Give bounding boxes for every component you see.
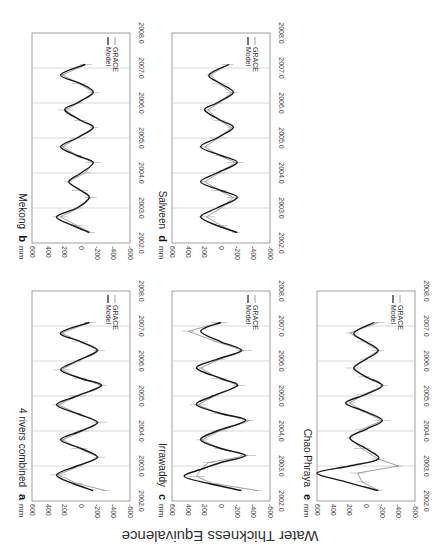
y-tick-label: 400: [45, 246, 52, 258]
y-tick-label: 0: [218, 246, 225, 250]
legend: ModelGRACE: [245, 295, 259, 330]
y-tick-label: 0: [78, 246, 85, 250]
x-tick-label: 2003.0: [278, 455, 285, 477]
panel-letter: b: [17, 235, 29, 242]
x-tick-label: 2008.0: [423, 280, 430, 302]
chart-svg: 2002.02003.02004.02005.02006.02007.02008…: [0, 0, 150, 270]
y-tick-label: 200: [61, 504, 68, 516]
panel-letter: c: [157, 494, 169, 500]
panel-title: Salween: [157, 191, 168, 229]
x-tick-label: 2008.0: [278, 280, 285, 302]
panel-e-chao-phraya: 2002.02003.02004.02005.02006.02007.02008…: [285, 258, 425, 518]
y-tick-label: 0: [78, 504, 85, 508]
x-tick-label: 2007.0: [278, 57, 285, 79]
model-series: [56, 65, 93, 233]
x-tick-label: 2007.0: [423, 315, 430, 337]
panel-title: Irrawaddy: [157, 443, 168, 487]
legend-grace-label: GRACE: [397, 305, 404, 330]
y-tick-label: 600: [169, 246, 176, 258]
unit-label: mm: [17, 504, 26, 518]
y-tick-label: 200: [201, 246, 208, 258]
panel-b-mekong: 2002.02003.02004.02005.02006.02007.02008…: [0, 0, 140, 260]
y-tick-label: -600: [127, 504, 134, 518]
shared-y-axis-label: Water Thickness Equivalence: [0, 528, 440, 545]
panel-letter: a: [17, 494, 29, 501]
x-tick-label: 2002.0: [278, 490, 285, 512]
x-tick-label: 2002.0: [423, 490, 430, 512]
unit-label: mm: [157, 504, 166, 518]
y-tick-label: 400: [185, 504, 192, 516]
chart-svg: 2002.02003.02004.02005.02006.02007.02008…: [140, 0, 290, 270]
legend: ModelGRACE: [245, 37, 259, 72]
chart-svg: 2002.02003.02004.02005.02006.02007.02008…: [285, 258, 435, 528]
x-tick-label: 2003.0: [278, 197, 285, 219]
x-tick-label: 2004.0: [278, 162, 285, 184]
x-tick-label: 2003.0: [423, 455, 430, 477]
y-tick-label: -600: [267, 504, 274, 518]
y-tick-label: 400: [330, 504, 337, 516]
y-tick-label: -600: [412, 504, 419, 518]
y-tick-label: 400: [185, 246, 192, 258]
grace-series: [58, 323, 105, 491]
y-tick-label: 400: [45, 504, 52, 516]
y-tick-label: 600: [29, 504, 36, 516]
legend-grace-label: GRACE: [112, 305, 119, 330]
x-tick-label: 2002.0: [278, 232, 285, 254]
panel-c-irrawaddy: 2002.02003.02004.02005.02006.02007.02008…: [140, 258, 280, 518]
y-tick-label: -400: [250, 504, 257, 518]
y-tick-label: -200: [94, 504, 101, 518]
legend-grace-label: GRACE: [252, 47, 259, 72]
legend-model-label: Model: [245, 305, 252, 325]
model-series: [184, 323, 245, 491]
legend-model-label: Model: [245, 47, 252, 67]
y-tick-label: -200: [379, 504, 386, 518]
panel-letter: d: [157, 235, 169, 242]
model-series: [201, 65, 238, 233]
x-tick-label: 2008.0: [278, 22, 285, 44]
model-series: [56, 323, 101, 491]
grace-series: [350, 323, 399, 491]
legend: ModelGRACE: [105, 295, 119, 330]
y-tick-label: 200: [346, 504, 353, 516]
panel-d-salween: 2002.02003.02004.02005.02006.02007.02008…: [140, 0, 280, 260]
y-tick-label: 200: [201, 504, 208, 516]
x-tick-label: 2006.0: [423, 350, 430, 372]
legend-model-label: Model: [390, 305, 397, 325]
panel-title: 4 rivers combined: [17, 408, 28, 487]
x-tick-label: 2005.0: [278, 385, 285, 407]
y-tick-label: -400: [395, 504, 402, 518]
legend-model-label: Model: [105, 305, 112, 325]
y-tick-label: 200: [61, 246, 68, 258]
x-tick-label: 2004.0: [423, 420, 430, 442]
x-tick-label: 2006.0: [278, 92, 285, 114]
x-tick-label: 2004.0: [278, 420, 285, 442]
chart-svg: 2002.02003.02004.02005.02006.02007.02008…: [140, 258, 290, 528]
model-series: [317, 323, 382, 491]
legend-grace-label: GRACE: [252, 305, 259, 330]
y-tick-label: 0: [363, 504, 370, 508]
y-tick-label: -200: [234, 504, 241, 518]
x-tick-label: 2005.0: [278, 127, 285, 149]
panel-title: Mekong: [17, 193, 28, 229]
y-tick-label: -400: [110, 504, 117, 518]
panel-a-4-rivers-combined: 2002.02003.02004.02005.02006.02007.02008…: [0, 258, 140, 518]
y-tick-label: 600: [314, 504, 321, 516]
x-tick-label: 2007.0: [278, 315, 285, 337]
y-tick-label: 600: [169, 504, 176, 516]
legend-model-label: Model: [105, 47, 112, 67]
y-tick-label: 0: [218, 504, 225, 508]
legend: ModelGRACE: [105, 37, 119, 72]
y-tick-label: 600: [29, 246, 36, 258]
panel-title: Chao Phraya: [302, 429, 313, 488]
x-tick-label: 2006.0: [278, 350, 285, 372]
legend-grace-label: GRACE: [112, 47, 119, 72]
x-tick-label: 2005.0: [423, 385, 430, 407]
unit-label: mm: [302, 504, 311, 518]
panel-letter: e: [302, 494, 314, 500]
chart-svg: 2002.02003.02004.02005.02006.02007.02008…: [0, 258, 150, 528]
legend: ModelGRACE: [390, 295, 404, 330]
